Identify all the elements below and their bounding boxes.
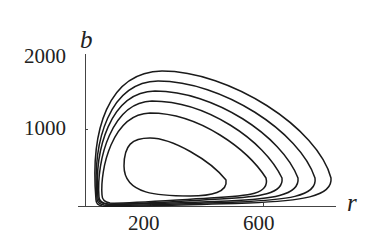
x-tick-label-600: 600 — [243, 213, 275, 234]
x-tick-label-200: 200 — [128, 213, 160, 234]
orbits — [95, 71, 331, 206]
y-tick-label-1000: 1000 — [24, 118, 66, 139]
x-axis-label: r — [347, 190, 357, 215]
orbit-2 — [102, 113, 267, 203]
orbit-1 — [124, 138, 226, 196]
y-tick-label-2000: 2000 — [24, 46, 66, 67]
y-axis-label: b — [80, 27, 93, 52]
